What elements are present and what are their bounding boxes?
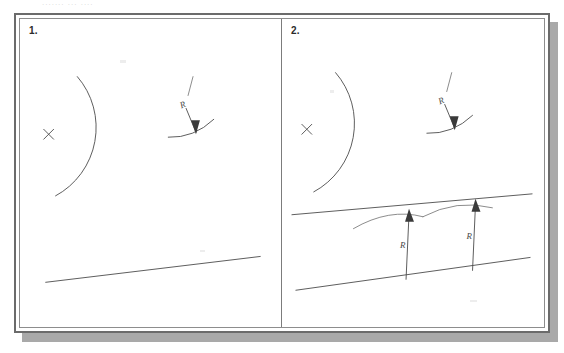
measure-arrow-shaft-right-2: [473, 204, 476, 271]
panel-2-drawing: R R R: [282, 19, 544, 327]
scan-speck: [330, 90, 334, 93]
panel-step-2: 2. R: [282, 19, 544, 327]
panel-1-drawing: R: [20, 19, 281, 327]
small-arc-2: [427, 115, 473, 133]
scan-speck: [120, 60, 126, 63]
large-arc-2: [314, 73, 355, 192]
radius-arrow-head-1: [191, 120, 200, 134]
measure-label-right-2: R: [466, 231, 473, 241]
large-arc-1: [56, 77, 97, 196]
scan-speck: [470, 300, 477, 302]
measure-label-left-2: R: [399, 240, 406, 250]
scan-speck: [200, 250, 205, 252]
scanned-page: ....... ... .... 1.: [0, 0, 564, 353]
center-cross-mark-2: [302, 124, 312, 134]
figure-frame: 1. R: [14, 13, 550, 333]
lower-guide-line-2: [296, 257, 530, 290]
cross-arc-right-2: [423, 205, 492, 217]
figure-inner-border: 1. R: [19, 18, 545, 328]
page-header-fragment: ....... ... ....: [42, 0, 162, 7]
center-cross-mark-1: [44, 129, 54, 139]
radius-arrow-head-2: [450, 116, 459, 130]
radius-leader-line-2: [447, 73, 452, 92]
measure-arrow-shaft-left-2: [406, 214, 409, 280]
radius-leader-line-1: [188, 77, 193, 96]
upper-guide-line-2: [292, 194, 532, 215]
panel-step-1: 1. R: [20, 19, 282, 327]
small-arc-1: [168, 119, 213, 137]
measure-arrow-head-left-2: [405, 209, 414, 222]
baseline-1: [46, 256, 261, 282]
